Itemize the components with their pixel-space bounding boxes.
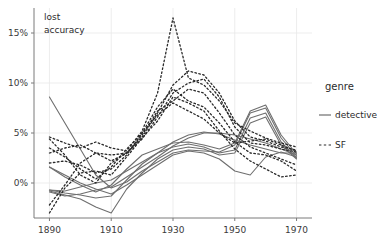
- lost-accuracy-line-chart: 0%5%10%15% 18901910193019501970 lost acc…: [0, 0, 377, 242]
- x-tick-label: 1950: [223, 225, 246, 235]
- x-tick-label: 1970: [285, 225, 308, 235]
- x-tick-label: 1930: [162, 225, 185, 235]
- y-tick-label: 5%: [14, 128, 29, 138]
- legend-label-sf: SF: [335, 140, 346, 150]
- y-tick-label: 15%: [8, 28, 28, 38]
- x-tick-label: 1890: [38, 225, 61, 235]
- legend-title: genre: [325, 81, 354, 92]
- y-axis-title-line-2: accuracy: [44, 25, 85, 35]
- y-tick-label: 0%: [14, 178, 29, 188]
- y-tick-label: 10%: [8, 78, 28, 88]
- y-axis-title-line-1: lost: [44, 12, 61, 22]
- chart-background: [0, 0, 377, 242]
- legend-label-detective: detective: [335, 110, 377, 120]
- x-tick-label: 1910: [100, 225, 123, 235]
